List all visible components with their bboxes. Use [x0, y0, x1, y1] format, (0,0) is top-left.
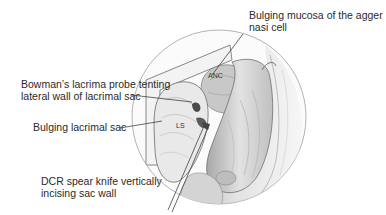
label-ls: LS [176, 122, 185, 129]
label-agger-nasi-line1: Bulging mucosa of the agger [249, 9, 383, 21]
label-bowman-probe: Bowman’s lacrima probe tenting lateral w… [21, 78, 170, 102]
endoscopic-illustration: Bulging mucosa of the agger nasi cell Bo… [0, 0, 386, 215]
label-bowman-probe-line1: Bowman’s lacrima probe tenting [21, 78, 170, 90]
label-bowman-probe-line2: lateral wall of lacrimal sac [21, 90, 170, 102]
label-lacrimal-sac-line1: Bulging lacrimal sac [33, 121, 126, 133]
label-anc: ANC [208, 72, 223, 79]
label-spear-knife-line2: incising sac wall [41, 187, 162, 199]
label-spear-knife-line1: DCR spear knife vertically [41, 175, 162, 187]
label-agger-nasi: Bulging mucosa of the agger nasi cell [249, 9, 383, 33]
label-spear-knife: DCR spear knife vertically incising sac … [41, 175, 162, 199]
label-agger-nasi-line2: nasi cell [249, 21, 383, 33]
label-lacrimal-sac: Bulging lacrimal sac [33, 121, 126, 133]
